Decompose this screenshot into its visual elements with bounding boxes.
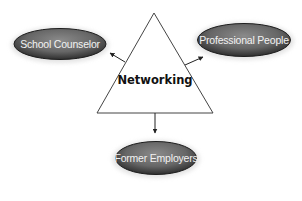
node-professional-people: Professional People — [194, 22, 294, 60]
former-employers-label: Former Employers — [114, 152, 197, 164]
professional-people-label: Professional People — [199, 34, 289, 46]
networking-triangle — [97, 13, 213, 113]
networking-label: Networking — [117, 73, 192, 87]
node-school-counselor: School Counselor — [11, 27, 109, 63]
node-former-employers: Former Employers — [112, 140, 200, 178]
networking-diagram: Networking School Counselor Professional… — [0, 0, 302, 201]
center-node: Networking — [97, 13, 213, 113]
school-counselor-label: School Counselor — [20, 38, 100, 50]
arrow-to-school-counselor — [110, 53, 125, 62]
arrow-to-professional-people — [185, 57, 203, 65]
